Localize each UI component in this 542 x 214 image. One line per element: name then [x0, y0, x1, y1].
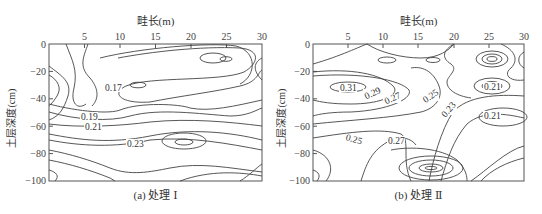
svg-text:25: 25 [484, 31, 494, 42]
svg-text:0.19: 0.19 [81, 112, 98, 122]
svg-text:−20: −20 [30, 66, 46, 77]
svg-text:30: 30 [519, 31, 529, 42]
svg-text:15: 15 [413, 31, 423, 42]
svg-text:0.21: 0.21 [85, 122, 102, 132]
svg-text:25: 25 [222, 31, 232, 42]
svg-text:0: 0 [41, 39, 46, 50]
caption-a: (a) 处理 Ⅰ [49, 186, 262, 202]
svg-text:0.21: 0.21 [484, 82, 501, 92]
svg-text:10: 10 [115, 31, 125, 42]
svg-text:0.25: 0.25 [421, 87, 441, 105]
svg-text:0.27: 0.27 [383, 90, 403, 106]
svg-text:20: 20 [449, 31, 459, 42]
svg-text:0.27: 0.27 [388, 136, 405, 146]
svg-text:0: 0 [305, 39, 310, 50]
svg-text:0.23: 0.23 [127, 139, 144, 149]
caption-b: (b) 处理 Ⅱ [313, 186, 524, 202]
svg-text:−40: −40 [30, 93, 46, 104]
svg-text:5: 5 [346, 31, 351, 42]
svg-text:−100: −100 [289, 175, 310, 186]
svg-text:−40: −40 [294, 93, 310, 104]
svg-text:10: 10 [378, 31, 388, 42]
svg-text:−60: −60 [30, 121, 46, 132]
svg-text:−60: −60 [294, 121, 310, 132]
svg-text:0.21: 0.21 [484, 111, 501, 121]
svg-text:0.31: 0.31 [340, 83, 357, 93]
svg-text:−100: −100 [25, 175, 46, 186]
contour-label: 0.17 [105, 83, 122, 93]
svg-text:−20: −20 [294, 66, 310, 77]
panel-b: 畦长(m) 土层深度(cm) 51015 202530 0−20−40 −60−… [271, 0, 542, 214]
svg-text:30: 30 [257, 31, 267, 42]
svg-text:−80: −80 [294, 148, 310, 159]
svg-text:15: 15 [151, 31, 161, 42]
svg-text:5: 5 [82, 31, 87, 42]
contour-plot-b: 51015 202530 0−20−40 −60−80−100 [271, 0, 542, 214]
svg-text:20: 20 [186, 31, 196, 42]
panel-a: 畦长(m) 土层深度(cm) 51015 202530 0−20−40 −60−… [0, 0, 271, 214]
svg-text:0.23: 0.23 [439, 100, 458, 119]
contour-plot-a: 51015 202530 0−20−40 −60−80−100 [0, 0, 271, 214]
svg-text:−80: −80 [30, 148, 46, 159]
